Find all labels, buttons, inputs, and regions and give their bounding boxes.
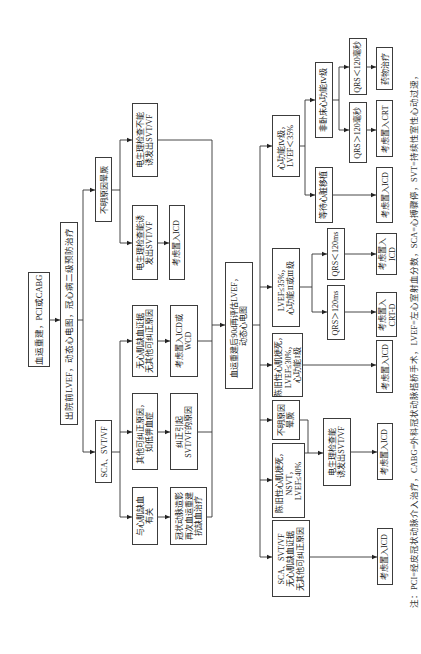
node-nyha4-lvef35: 心功能Ⅳ级， LVEF＜35% [272,115,300,177]
node-label: SCA、SVT/VF 无心肌缺血证据 无其他可纠正原因 [272,520,310,597]
node-label: 心功能Ⅳ级， LVEF＜35% [272,115,300,177]
node-correct-cause: 纠正引起 SVT/VF的原因 [170,393,198,470]
node-label: 陈旧性心肌梗死， LVEF≤30%， 心功能Ⅰ级 [272,333,303,397]
node-label: 非卧床心功能Ⅳ级 [315,62,333,138]
node-label: 出院前LVEF，动态心电图，冠心病二级预防治疗 [60,222,78,425]
node-unexplained-syncope-early: 不明原因晕厥 [95,157,112,222]
node-label: 不明原因晕厥 [95,157,112,222]
node-label: 考虑置入ICD或 WCD [170,305,198,377]
node-other-correctable-cause: 其他可纠正原因， 如低钾血症 [132,393,158,470]
node-label: QRS＜120毫秒 [349,38,367,95]
node-no-ischemia-evidence: 无心肌缺血证据 无其他可纠正原因 [132,305,158,377]
node-label: 等待心脏移植 [315,167,333,223]
node-consider-icd-e: 考虑置入ICD [377,528,393,585]
node-old-mi-lvef30: 陈旧性心肌梗死， LVEF≤30%， 心功能Ⅰ级 [272,333,303,397]
connector-oldmi30-icd [303,363,376,367]
node-old-mi-nsvt-lvef40: 陈旧性心肌梗死， NSVT， LVEF≤40% [272,443,305,518]
node-qrs-lt-120-a: QRS＜120毫秒 [349,38,367,95]
node-label: 药物治疗 [376,47,393,90]
node-90d-reassessment: 血运重建后90d再评估LVEF， 动态心电图 [225,262,253,389]
node-consider-crt-d: 考虑置入 CRT-D [376,292,397,337]
node-label: LVEF≤35%， 心功能Ⅱ或Ⅲ级 [272,248,300,327]
node-label: 考虑置入ICD [377,423,393,480]
node-label: 无心肌缺血证据 无其他可纠正原因 [132,305,158,377]
figure-note: 注：PCI=经皮冠状动脉介入治疗，CABG=外科冠状动脉搭桥手术，LVEF=左心… [408,28,420,608]
node-sca-svt-vf-late: SCA、SVT/VF 无心肌缺血证据 无其他可纠正原因 [272,520,310,597]
node-label: 不明原因 晕厥 [272,400,300,440]
connector-root-discharge [50,318,60,322]
node-label: 考虑置入ICD [377,528,393,585]
node-consider-icd-d: 考虑置入ICD [377,423,393,480]
node-label: 冠状动脉造影 再次血运重建 抗缺血治疗 [170,487,207,545]
node-label: 考虑置入CRT [376,100,393,157]
node-label: SCA、SVT/VF [95,420,112,483]
node-ambulatory-nyha4: 非卧床心功能Ⅳ级 [315,62,333,138]
node-ep-study-negative: 电生理检查不能 诱发出SVT/VF [132,103,158,177]
node-label: QRS＜120ms [327,228,345,280]
node-consider-icd-transplant: 考虑置入ICD [376,167,393,223]
node-qrs-gt-120-a: QRS＞120毫秒 [349,102,367,163]
node-label: 其他可纠正原因， 如低钾血症 [132,393,158,470]
connector-discharge-branches [78,188,95,454]
node-label: 陈旧性心肌梗死， NSVT， LVEF≤40% [272,443,305,518]
node-label: 电生理检查能诱 发出SVT/VF [132,205,158,280]
connector-reassess-branches [253,144,272,559]
node-label: 考虑置入 ICD [376,233,397,275]
node-consider-icd-early: 考虑置入ICD [169,205,185,280]
node-label: 考虑置入ICD [169,205,185,280]
node-label: 血运重建，PCI或CABG [28,272,50,367]
node-label: 考虑置入 CRT-D [376,292,397,337]
node-ischemia-related: 与心肌缺血 有关 [132,487,158,545]
connector-sca2-icd [310,555,377,559]
node-lvef35-nyha2-3: LVEF≤35%， 心功能Ⅱ或Ⅲ级 [272,248,300,327]
node-label: QRS＞120ms [327,285,345,340]
node-qrs-lt-120-b: QRS＜120ms [327,228,345,280]
node-label: 与心肌缺血 有关 [132,487,158,545]
node-consider-icd-or-wcd: 考虑置入ICD或 WCD [170,305,198,377]
node-awaiting-transplant: 等待心脏移植 [315,167,333,223]
node-angiography-revascularization: 冠状动脉造影 再次血运重建 抗缺血治疗 [170,487,207,545]
flowchart-canvas: 血运重建，PCI或CABG 出院前LVEF，动态心电图，冠心病二级预防治疗 不明… [0,0,421,654]
node-consider-icd-b: 考虑置入 ICD [376,233,397,275]
node-label: 电生理检查能 诱发出SVT/VF [323,418,351,486]
node-drug-therapy: 药物治疗 [376,47,393,90]
node-label: 电生理检查不能 诱发出SVT/VF [132,103,158,177]
node-ep-study-positive-late: 电生理检查能 诱发出SVT/VF [323,418,351,486]
node-label: QRS＞120毫秒 [349,102,367,163]
node-sca-svt-vf-early: SCA、SVT/VF [95,420,112,483]
node-label: 血运重建后90d再评估LVEF， 动态心电图 [225,262,253,389]
node-consider-icd-c: 考虑置入ICD [376,340,393,393]
node-predischarge-evaluation: 出院前LVEF，动态心电图，冠心病二级预防治疗 [60,222,78,425]
node-label: 考虑置入ICD [376,340,393,393]
node-qrs-gt-120-b: QRS＞120ms [327,285,345,340]
node-consider-crt: 考虑置入CRT [376,100,393,157]
node-ep-study-positive-early: 电生理检查能诱 发出SVT/VF [132,205,158,280]
node-revascularization: 血运重建，PCI或CABG [28,272,50,367]
node-label: 考虑置入ICD [376,167,393,223]
node-label: 纠正引起 SVT/VF的原因 [170,393,198,470]
node-unexplained-syncope-late: 不明原因 晕厥 [272,400,300,440]
